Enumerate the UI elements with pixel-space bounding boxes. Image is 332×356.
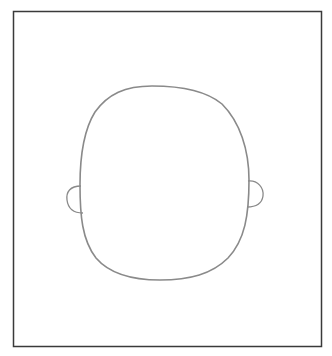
drawing-canvas xyxy=(0,0,332,356)
frame-border xyxy=(14,12,322,347)
